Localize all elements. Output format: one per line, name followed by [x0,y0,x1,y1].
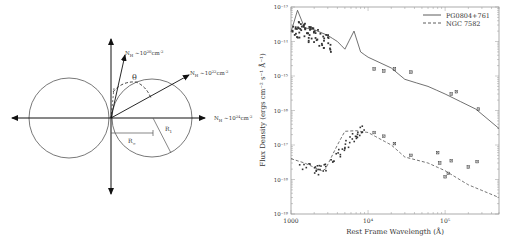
spectrum-point [303,24,305,26]
spectrum-point [344,150,346,152]
spectrum-point [361,125,363,127]
spectrum-point [298,22,300,24]
spectrum-point [309,34,311,36]
spectrum-point [303,164,305,166]
spectrum-point [355,136,357,138]
r1-label: R1 [165,125,172,134]
spectrum-point [329,49,331,51]
spectrum-point [315,32,317,34]
spectrum-point [349,142,351,144]
spectrum-point [359,127,361,129]
spectrum-point [318,45,320,47]
spectrum-point [323,164,325,166]
sed-chart: 10⁻¹³10⁻¹⁴10⁻¹⁵10⁻¹⁶10⁻¹⁷10⁻¹⁸10⁻¹⁹ 1000… [258,4,499,236]
spectrum-point [300,29,302,31]
spectrum-point [340,156,342,158]
y-tick-label: 10⁻¹³ [274,4,288,10]
spectrum-point [342,148,344,150]
r1-radius-line [153,118,171,153]
spectrum-point [308,37,310,39]
spectrum-point [330,51,332,53]
spectrum-point [295,26,297,28]
spectrum-point [298,32,300,34]
nh20-label: NH ~1020cm-2 [125,49,164,58]
y-tick-label: 10⁻¹⁶ [274,108,289,114]
spectrum-point [295,28,297,30]
spectrum-point [316,39,318,41]
spectrum-point [332,161,334,163]
spectrum-point [325,170,327,172]
spectrum-point [327,34,329,36]
x-tick-label: 10⁴ [363,217,374,224]
y-tick-label: 10⁻¹⁸ [274,177,289,183]
spectrum-point [319,169,321,171]
spectrum-point [297,26,299,28]
spectrum-point [357,137,359,139]
spectrum-point [292,26,294,28]
spectrum-point [323,37,325,39]
spectrum-point [299,164,301,166]
spectrum-point [315,37,317,39]
spectrum-point [308,26,310,28]
spectrum-point [304,28,306,30]
nh20-sightline-arrow [111,55,125,118]
spectrum-point [352,133,354,135]
spectrum-point [320,165,322,167]
data-lines [291,10,499,197]
spectrum-point [328,37,330,39]
spectrum-point [292,31,294,33]
spectrum-point [362,131,364,133]
spectrum-point [338,149,340,151]
spectrum-point [345,143,347,145]
spectrum-point [330,44,332,46]
spectrum-point [323,47,325,49]
spectrum-point [349,136,351,138]
spectrum-point [315,166,317,168]
spectrum-point [330,159,332,161]
spectrum-point [345,140,347,142]
spectrum-point [325,166,327,168]
r-inf-label: R∞ [128,137,136,146]
legend: PG0804+761 NGC 7582 [423,12,490,28]
spectrum-point [344,148,346,150]
x-tick-label: 1000 [283,217,298,224]
spectrum-point [320,33,322,35]
spectrum-point [322,36,324,38]
spectrum-point [316,169,318,171]
spectrum-point [317,169,319,171]
spectrum-point [307,32,309,34]
y-tick-label: 10⁻¹⁷ [274,142,289,148]
photometry-points [292,21,480,178]
spectrum-point [313,41,315,43]
spectrum-point [322,170,324,172]
spectrum-point [309,29,311,31]
legend-label-pg0804: PG0804+761 [446,12,490,20]
spectrum-point [314,172,316,174]
spectrum-point [317,29,319,31]
legend-label-ngc7582: NGC 7582 [446,20,480,28]
spectrum-point [348,147,350,149]
spectrum-point [296,36,298,38]
spectrum-point [340,154,342,156]
spectrum-point [304,35,306,37]
spectrum-point [295,33,297,35]
spectrum-point [308,41,310,43]
y-axis-title: Flux Density (ergs cm⁻² s⁻¹ Å⁻¹) [258,53,267,167]
spectrum-point [313,32,315,34]
y-tick-label: 10⁻¹⁵ [274,73,288,79]
x-tick-label: 10⁵ [440,217,451,224]
theta-label: θ [132,73,137,82]
spectrum-point [299,37,301,39]
spectrum-point [359,135,361,137]
plot-frame [291,7,499,214]
axis-ticks [291,7,499,214]
spectrum-point [352,138,354,140]
nh24-label: NH ~1024cm-2 [214,114,253,123]
y-tick-labels: 10⁻¹³10⁻¹⁴10⁻¹⁵10⁻¹⁶10⁻¹⁷10⁻¹⁸10⁻¹⁹ [274,4,289,217]
spectrum-point [325,34,327,36]
spectrum-point [318,174,320,176]
spectrum-point [301,26,303,28]
spectrum-point [357,133,359,135]
spectrum-point [323,40,325,42]
spectrum-point [321,44,323,46]
